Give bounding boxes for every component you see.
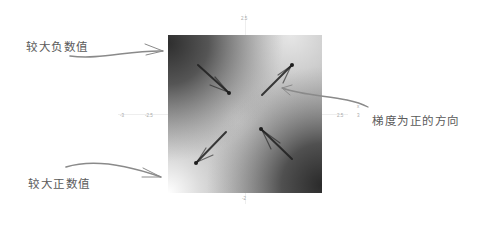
- label-large-positive: 较大正数值: [28, 175, 91, 191]
- annotation-arrow-gradient: [282, 85, 368, 107]
- label-large-negative: 较大负数值: [26, 38, 89, 54]
- label-gradient-positive-direction: 梯度为正的方向: [372, 112, 460, 128]
